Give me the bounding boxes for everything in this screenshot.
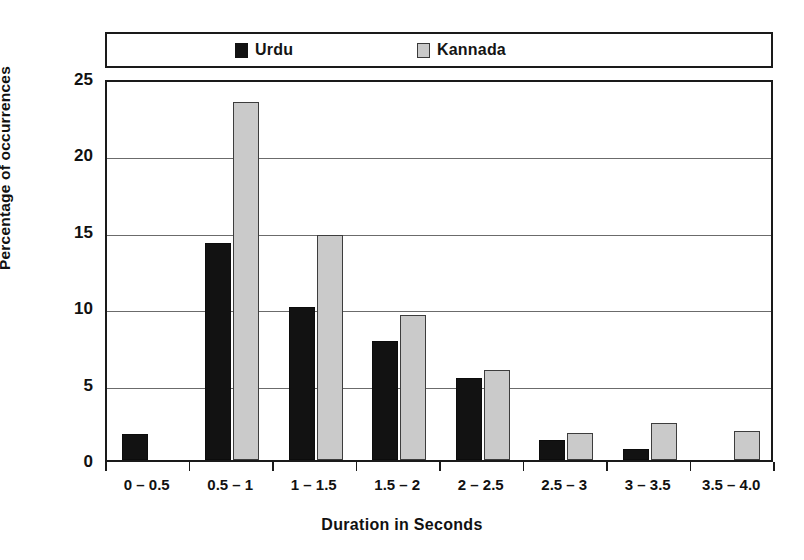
bar-urdu-4: [456, 378, 482, 461]
y-axis-tick-label: 25: [53, 70, 93, 90]
legend-swatch-kannada-icon: [417, 43, 430, 58]
x-axis-tick: [189, 462, 191, 471]
legend-swatch-urdu-icon: [235, 43, 248, 58]
y-axis-title: Percentage of occurrences: [0, 66, 14, 270]
y-axis-tick-label: 20: [53, 146, 93, 166]
x-axis-tick: [439, 462, 441, 471]
x-axis-tick: [690, 462, 692, 471]
plot-frame: [105, 80, 773, 462]
bar-kannada-2: [317, 235, 343, 460]
y-axis-tick-label: 5: [53, 376, 93, 396]
x-axis-tick-label: 3.5 – 4.0: [676, 476, 786, 493]
x-axis-tick: [272, 462, 274, 471]
legend-entry-urdu: Urdu: [235, 41, 293, 59]
legend-label-urdu: Urdu: [255, 41, 293, 59]
legend-entry-kannada: Kannada: [417, 41, 506, 59]
bar-urdu-6: [623, 449, 649, 460]
y-axis-tick-label: 15: [53, 223, 93, 243]
bar-kannada-1: [233, 102, 259, 460]
bar-kannada-4: [484, 370, 510, 460]
x-axis-tick: [773, 462, 775, 471]
bar-urdu-2: [289, 307, 315, 460]
bar-urdu-3: [372, 341, 398, 460]
bar-urdu-1: [205, 243, 231, 460]
chart-legend: Urdu Kannada: [105, 32, 773, 68]
bar-urdu-5: [539, 440, 565, 460]
plot-area: [107, 82, 771, 460]
x-axis-title: Duration in Seconds: [0, 516, 804, 534]
gridline: [107, 158, 771, 159]
x-axis-tick: [105, 462, 107, 471]
y-axis-tick-label: 0: [53, 452, 93, 472]
x-axis-tick: [523, 462, 525, 471]
bar-kannada-6: [651, 423, 677, 460]
legend-label-kannada: Kannada: [437, 41, 506, 59]
bar-kannada-7: [734, 431, 760, 460]
bar-urdu-0: [122, 434, 148, 460]
gridline: [107, 235, 771, 236]
x-axis-tick: [606, 462, 608, 471]
bar-chart-figure: Urdu Kannada Percentage of occurrences 0…: [0, 0, 804, 560]
bar-kannada-3: [400, 315, 426, 460]
y-axis-tick-label: 10: [53, 299, 93, 319]
bar-kannada-5: [567, 433, 593, 461]
x-axis-tick: [356, 462, 358, 471]
